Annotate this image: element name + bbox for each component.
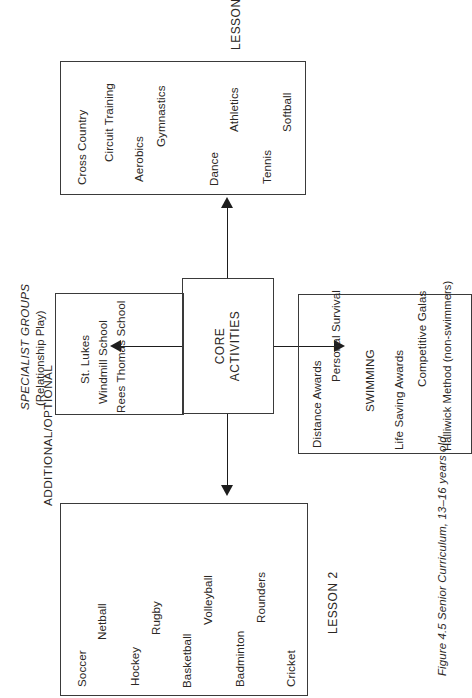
lesson2-item-hockey: Hockey [128,647,141,686]
lesson1-box: Distance Awards Personal Survival SWIMMI… [298,294,472,454]
arrowhead-core-to-lesson3 [221,197,233,208]
figure-caption: Figure 4.5 Senior Curriculum, 13–16 year… [436,436,448,676]
connector-core-to-lesson2 [227,414,228,486]
lesson3-item-athletics: Athletics [227,87,240,132]
lesson3-item-tennis: Tennis [260,150,273,184]
lesson2-tag: LESSON 2 [326,571,340,634]
lesson1-item-distance-awards: Distance Awards [310,360,323,448]
lesson1-item-personal-survival: Personal Survival [329,290,342,382]
arrowhead-core-to-lesson2 [221,485,233,496]
lesson2-item-rounders: Rounders [254,572,267,623]
lesson1-item-halliwick-method: Halliwick Method (non-swimmers) [441,281,453,451]
diagram-canvas: Figure 4.5 Senior Curriculum, 13–16 year… [0,0,472,698]
lesson1-item-life-saving-awards: Life Saving Awards [392,350,405,450]
lesson2-item-badminton: Badminton [233,631,246,687]
specialist-item-rees-thomas-school: Rees Thomas School [114,301,127,413]
lesson3-item-cross-country: Cross Country [75,110,88,185]
specialist-groups-title: SPECIALIST GROUPS [18,284,31,410]
core-activities-label: CORE ACTIVITIES [213,279,243,413]
figure-page: Figure 4.5 Senior Curriculum, 13–16 year… [0,0,472,698]
connector-core-to-lesson3 [227,206,228,278]
lesson2-item-basketball: Basketball [180,634,193,689]
specialist-item-windmill-school: Windmill School [96,320,109,404]
lesson3-item-circuit-training: Circuit Training [102,83,115,162]
specialist-groups-subtitle: (Relationship Play) [34,310,46,406]
core-activities-line-2: ACTIVITIES [228,279,243,413]
lesson3-box: Cross Country Circuit Training Aerobics … [60,61,306,195]
lesson2-item-volleyball: Volleyball [201,575,214,625]
specialist-item-st-lukes: St. Lukes [78,335,91,384]
lesson3-item-gymnastics: Gymnastics [154,85,167,147]
lesson2-item-soccer: Soccer [75,650,88,687]
lesson2-item-rugby: Rugby [149,601,162,635]
lesson2-item-netball: Netball [95,603,108,640]
core-activities-line-1: CORE [213,279,228,413]
lesson3-item-softball: Softball [280,93,293,132]
specialist-groups-box: St. Lukes Windmill School Rees Thomas Sc… [55,293,184,415]
core-activities-box: CORE ACTIVITIES [182,278,274,414]
lesson3-item-aerobics: Aerobics [132,136,145,182]
lesson2-box: Soccer Netball Hockey Rugby Basketball V… [60,503,308,696]
lesson1-item-competitive-galas: Competitive Galas [415,291,428,387]
lesson2-item-cricket: Cricket [284,650,297,687]
lesson1-item-swimming: SWIMMING [363,349,376,412]
lesson3-item-dance: Dance [207,152,220,186]
lesson3-tag: LESSON 3 [229,0,243,50]
